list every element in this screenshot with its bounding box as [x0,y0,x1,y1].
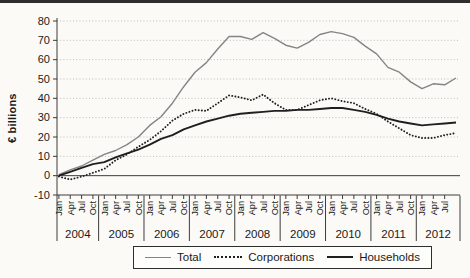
chart-svg: 80706050403020100-10JanAprJulOct2004JanA… [0,0,470,278]
x-tick-label: Apr [66,201,76,215]
x-tick-label: Jan [281,201,291,216]
legend-item-households: Households [327,251,420,263]
year-label: 2010 [335,228,361,240]
y-tick-label: 40 [38,92,50,104]
y-tick-label: 30 [38,111,50,123]
x-tick-label: Oct [270,201,280,216]
x-tick-label: Oct [134,201,144,216]
x-tick-label: Oct [315,201,325,216]
legend-item-total: Total [145,251,201,263]
x-tick-label: Oct [88,201,98,216]
y-tick-label: 80 [38,15,50,27]
x-tick-label: Jul [122,201,132,213]
households-line-swatch-icon [327,256,353,258]
year-label: 2009 [290,228,316,240]
x-tick-label: Apr [293,201,303,215]
x-tick-label: Jan [417,201,427,216]
x-tick-label: Apr [338,201,348,215]
legend-label-corporations: Corporations [248,251,314,263]
corporations-dotted-swatch-icon [214,256,242,258]
year-label: 2011 [381,228,406,240]
year-label: 2008 [245,228,271,240]
year-label: 2012 [425,228,451,240]
legend-label-total: Total [177,251,201,263]
x-tick-label: Oct [361,201,371,216]
year-label: 2004 [65,228,91,240]
y-tick-label: 0 [44,169,50,181]
total-line-swatch-icon [145,257,171,258]
x-tick-label: Jan [54,201,64,216]
series-line-total [59,32,456,175]
year-label: 2007 [199,228,225,240]
x-tick-label: Apr [202,201,212,215]
x-tick-label: Apr [156,201,166,215]
x-tick-label: Oct [224,201,234,216]
x-tick-label: Jan [372,201,382,216]
year-label: 2005 [109,228,135,240]
x-tick-label: Jul [440,201,450,213]
x-tick-label: Jan [327,201,337,216]
x-tick-label: Jan [190,201,200,216]
x-tick-label: Oct [179,201,189,216]
x-tick-label: Jul [349,201,359,213]
x-tick-label: Jan [145,201,155,216]
x-tick-label: Jul [77,201,87,213]
x-tick-label: Apr [247,201,257,215]
x-tick-label: Apr [111,201,121,215]
x-tick-label: Jan [100,201,110,216]
x-tick-label: Jul [259,201,269,213]
x-tick-label: Jul [168,201,178,213]
x-tick-label: Jan [236,201,246,216]
y-tick-label: 60 [38,53,50,65]
x-tick-label: Apr [429,201,439,215]
x-tick-label: Jul [395,201,405,213]
legend-item-corporations: Corporations [214,251,314,263]
legend-label-households: Households [359,251,420,263]
x-tick-label: Jul [213,201,223,213]
legend: Total Corporations Households [133,246,432,269]
x-tick-label: Oct [406,201,416,216]
x-tick-label: Apr [383,201,393,215]
y-tick-label: 70 [38,34,50,46]
x-tick-label: Jul [304,201,314,213]
y-tick-label: -10 [34,189,50,201]
year-label: 2006 [154,228,180,240]
y-axis-title: € billions [6,93,18,143]
y-tick-label: 50 [38,73,50,85]
figure: 80706050403020100-10JanAprJulOct2004JanA… [0,0,470,278]
y-tick-label: 20 [38,131,50,143]
y-tick-label: 10 [38,150,50,162]
